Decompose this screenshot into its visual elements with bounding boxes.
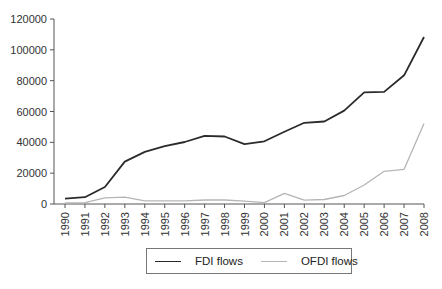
x-tick-label: 1991 bbox=[79, 212, 91, 236]
y-tick-label: 20000 bbox=[16, 167, 47, 179]
y-tick-label: 0 bbox=[41, 198, 47, 210]
legend-item-ofdi: OFDI flows bbox=[253, 255, 358, 267]
y-tick-label: 120000 bbox=[10, 13, 47, 25]
x-tick-label: 2002 bbox=[298, 212, 310, 236]
x-tick-label: 2006 bbox=[378, 212, 390, 236]
line-chart: 020000400006000080000100000120000 199019… bbox=[0, 0, 442, 245]
ofdi-flows-line bbox=[65, 124, 424, 203]
x-tick-label: 1994 bbox=[139, 212, 151, 236]
fdi-line-swatch-icon bbox=[155, 261, 181, 262]
x-tick-label: 2008 bbox=[418, 212, 430, 236]
series-layer bbox=[65, 37, 424, 203]
x-tick-label: 1996 bbox=[179, 212, 191, 236]
legend-label-fdi: FDI flows bbox=[195, 255, 243, 267]
y-axis: 020000400006000080000100000120000 bbox=[10, 13, 54, 210]
ofdi-line-swatch-icon bbox=[261, 261, 287, 262]
y-tick-label: 40000 bbox=[16, 136, 47, 148]
fdi-flows-line bbox=[65, 37, 424, 199]
legend-item-fdi: FDI flows bbox=[147, 255, 243, 267]
x-tick-label: 1999 bbox=[239, 212, 251, 236]
x-tick-label: 2003 bbox=[318, 212, 330, 236]
x-axis: 1990199119921993199419951996199719981999… bbox=[54, 204, 430, 236]
y-tick-label: 60000 bbox=[16, 106, 47, 118]
x-tick-label: 1998 bbox=[219, 212, 231, 236]
x-tick-label: 1992 bbox=[99, 212, 111, 236]
x-tick-label: 1993 bbox=[119, 212, 131, 236]
x-tick-label: 2007 bbox=[398, 212, 410, 236]
x-tick-label: 1990 bbox=[59, 212, 71, 236]
x-tick-label: 1997 bbox=[199, 212, 211, 236]
x-tick-label: 2000 bbox=[258, 212, 270, 236]
x-tick-label: 2005 bbox=[358, 212, 370, 236]
x-tick-label: 2001 bbox=[278, 212, 290, 236]
legend-label-ofdi: OFDI flows bbox=[301, 255, 358, 267]
y-tick-label: 80000 bbox=[16, 75, 47, 87]
y-tick-label: 100000 bbox=[10, 44, 47, 56]
x-tick-label: 1995 bbox=[159, 212, 171, 236]
legend: FDI flows OFDI flows bbox=[146, 248, 352, 274]
x-tick-label: 2004 bbox=[338, 212, 350, 236]
